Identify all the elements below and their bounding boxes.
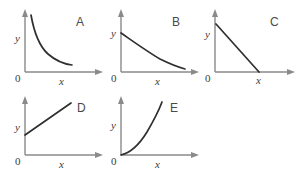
x-axis-label: x <box>58 158 64 170</box>
y-axis-arrow-icon <box>22 96 28 104</box>
x-axis-label: x <box>255 74 261 86</box>
panel-letter-b: B <box>172 15 180 29</box>
y-axis-arrow-icon <box>212 9 218 17</box>
origin-label: 0 <box>15 72 21 84</box>
x-axis-label: x <box>154 75 160 87</box>
panel-letter-e: E <box>170 101 178 115</box>
curve-c <box>216 24 259 72</box>
y-axis-label: y <box>14 32 20 44</box>
origin-label: 0 <box>15 155 21 167</box>
panel-letter-c: C <box>270 15 279 29</box>
panel-a: y 0 x A <box>14 8 106 86</box>
y-axis-label: y <box>14 121 20 133</box>
y-axis-label: y <box>204 28 210 40</box>
curve-d <box>25 103 71 135</box>
panel-d-plot: y 0 x D <box>14 95 106 169</box>
x-axis-arrow-icon <box>191 69 199 75</box>
panel-a-plot: y 0 x A <box>14 8 106 86</box>
y-axis-arrow-icon <box>118 96 124 104</box>
x-axis-arrow-icon <box>95 152 103 158</box>
origin-label: 0 <box>111 155 117 167</box>
panel-e: y 0 x E <box>110 95 202 169</box>
origin-label: 0 <box>111 72 117 84</box>
curve-e <box>121 102 162 155</box>
panel-c-plot: y 0 x C <box>204 8 300 86</box>
panel-b: y 0 x B <box>110 8 202 86</box>
curve-a <box>31 15 72 65</box>
y-axis-arrow-icon <box>118 9 124 17</box>
y-axis-arrow-icon <box>22 9 28 17</box>
curve-b <box>121 33 185 69</box>
x-axis-arrow-icon <box>287 69 295 75</box>
panel-e-plot: y 0 x E <box>110 95 202 169</box>
x-axis-arrow-icon <box>95 69 103 75</box>
origin-label: 0 <box>205 72 211 84</box>
x-axis-arrow-icon <box>191 152 199 158</box>
x-axis-label: x <box>154 158 160 170</box>
panel-d: y 0 x D <box>14 95 106 169</box>
y-axis-label: y <box>110 119 116 131</box>
panel-letter-d: D <box>77 101 86 115</box>
y-axis-label: y <box>110 27 116 39</box>
panel-letter-a: A <box>76 15 84 29</box>
panel-b-plot: y 0 x B <box>110 8 202 86</box>
panel-c: y 0 x C <box>204 8 300 86</box>
multi-panel-graph-figure: y 0 x A y 0 x B y 0 x C <box>0 0 306 173</box>
x-axis-label: x <box>58 75 64 87</box>
